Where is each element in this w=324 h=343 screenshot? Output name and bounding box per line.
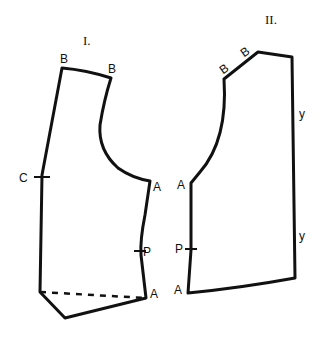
piece-2-title: II. [265,12,277,27]
piece-2-label-y-bottom: y [299,229,305,243]
pattern-piece-2: II. B B y y A P A [174,12,305,297]
piece-1-label-c: C [19,171,28,185]
piece-1-label-b-left: B [60,52,68,66]
piece-2-label-y-top: y [299,107,305,121]
piece-1-label-b-right: B [108,62,116,76]
piece-1-label-a-top: A [153,180,161,194]
piece-2-label-a-top: A [177,178,185,192]
pattern-piece-1: I. B B C A P A [19,33,161,318]
piece-1-outline [40,68,150,318]
piece-2-label-a-bottom: A [174,283,182,297]
piece-1-dashed-line [40,292,146,298]
piece-2-label-p: P [175,242,183,256]
piece-1-title: I. [83,33,91,48]
piece-1-label-p: P [143,245,151,259]
piece-2-outline [188,52,295,293]
pattern-diagram: I. B B C A P A II. B B y y A P A [0,0,324,343]
piece-1-label-a-bottom: A [150,287,158,301]
